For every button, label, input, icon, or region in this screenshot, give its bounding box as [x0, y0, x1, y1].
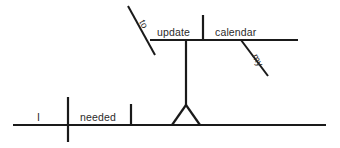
- word-subject: I: [37, 111, 40, 123]
- sentence-diagram: I needed to update calendar my: [0, 0, 340, 148]
- word-infinitive-verb: update: [157, 26, 190, 38]
- word-direct-object: calendar: [215, 26, 257, 38]
- tripod-left-leg: [172, 105, 186, 125]
- sentence-diagram-canvas: I needed to update calendar my: [0, 0, 340, 148]
- tripod-right-leg: [186, 105, 200, 125]
- to-slant-line: [128, 6, 155, 55]
- word-verb: needed: [80, 111, 116, 123]
